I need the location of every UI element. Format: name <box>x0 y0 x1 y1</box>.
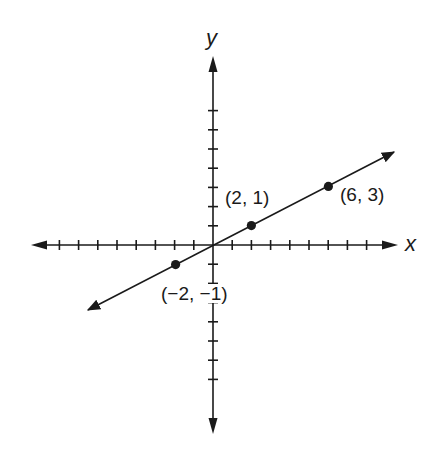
point-2-1 <box>247 221 256 230</box>
graphed-line <box>88 152 394 310</box>
point-6-3 <box>324 182 333 191</box>
coordinate-plane <box>0 0 439 460</box>
point-label-2-1: (2, 1) <box>225 188 269 207</box>
y-axis-label: y <box>206 27 217 49</box>
x-axis-left-arrow-icon <box>31 241 47 250</box>
y-axis-bottom-arrow-icon <box>209 418 218 434</box>
point-label-6-3: (6, 3) <box>340 185 384 204</box>
x-axis-label: x <box>405 233 416 255</box>
y-axis-top-arrow-icon <box>209 56 218 72</box>
x-axis-right-arrow-icon <box>382 241 398 250</box>
point-label-neg2-neg1: (−2, −1) <box>160 284 229 303</box>
point-neg2-neg1 <box>171 260 180 269</box>
